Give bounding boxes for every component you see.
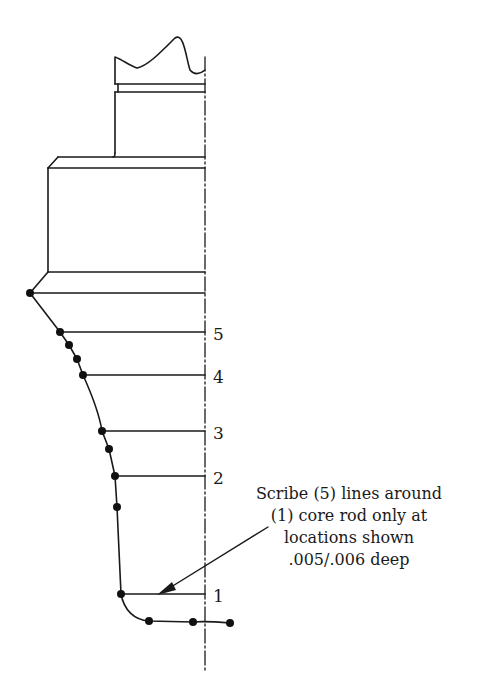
profile-dot — [26, 289, 34, 297]
lower-chamfer — [30, 272, 48, 293]
scribe-label-3: 3 — [213, 423, 224, 443]
profile-dot — [56, 328, 64, 336]
profile-dot — [105, 445, 113, 453]
profile-dot — [98, 427, 106, 435]
profile-dot — [73, 355, 81, 363]
profile-points — [26, 289, 234, 627]
leader-arrowhead — [157, 582, 176, 595]
core-rod-drawing: 5 4 3 2 1 Scribe (5) lines around (1) co… — [0, 0, 486, 675]
profile-dot — [79, 371, 87, 379]
annotation-line-4: .005/.006 deep — [288, 550, 409, 569]
profile-dot — [226, 619, 234, 627]
profile-dot — [189, 618, 197, 626]
rod-profile-curve — [30, 293, 230, 623]
profile-dot — [65, 341, 73, 349]
profile-dot — [113, 503, 121, 511]
scribe-label-4: 4 — [213, 367, 224, 387]
scribe-label-2: 2 — [213, 468, 224, 488]
profile-dot — [111, 472, 119, 480]
annotation-line-1: Scribe (5) lines around — [256, 484, 442, 503]
profile-dot — [145, 617, 153, 625]
scribe-label-5: 5 — [213, 324, 224, 344]
profile-dot — [117, 590, 125, 598]
break-wave-outline — [115, 37, 205, 84]
annotation-line-2: (1) core rod only at — [271, 506, 428, 525]
scribe-label-1: 1 — [213, 586, 224, 606]
large-block-chamfer — [48, 157, 58, 168]
annotation-line-3: locations shown — [284, 528, 414, 547]
scribe-annotation: Scribe (5) lines around (1) core rod onl… — [256, 484, 442, 569]
leader-line — [163, 527, 268, 592]
